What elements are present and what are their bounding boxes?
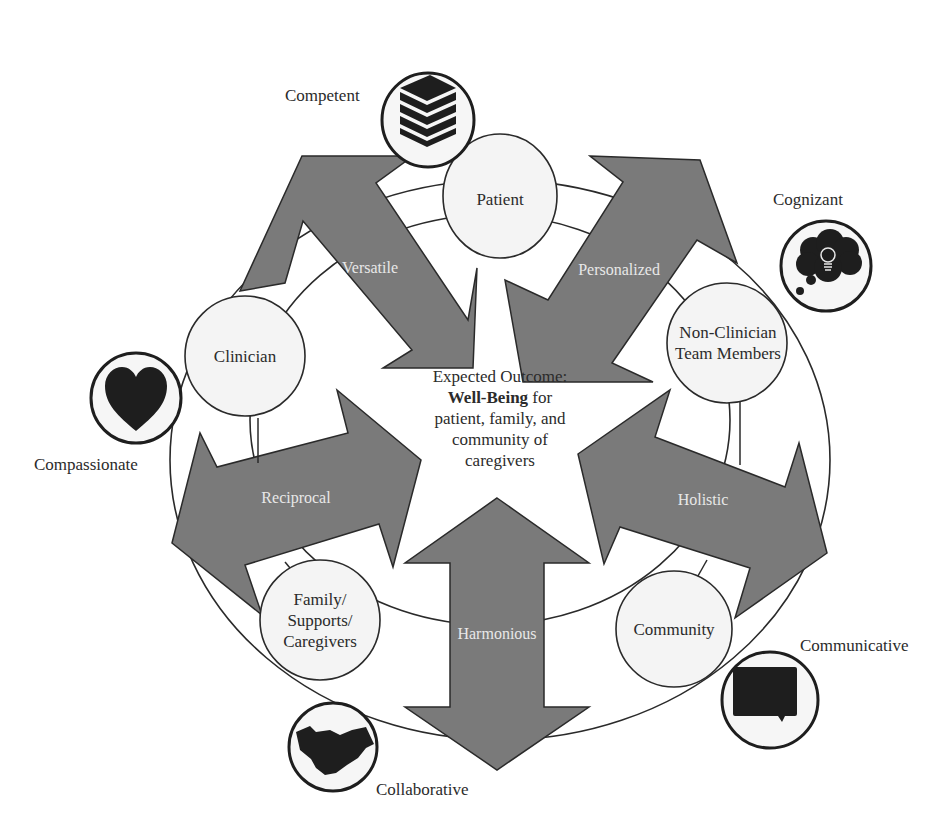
care-model-diagram: Patient Clinician Non-Clinician Team Mem… <box>0 0 950 826</box>
node-line: Non-Clinician <box>675 322 781 343</box>
arrow-label-harmonious: Harmonious <box>457 625 536 643</box>
arrow-label-versatile: Versatile <box>342 259 398 277</box>
node-line: Team Members <box>675 343 781 364</box>
attribute-label-communicative: Communicative <box>800 636 909 656</box>
node-label-clinician: Clinician <box>214 346 276 367</box>
outcome-bold: Well-Being <box>448 388 528 407</box>
node-line: Supports/ <box>283 610 357 631</box>
outcome-line: Well-Being for <box>410 387 590 408</box>
node-line: Patient <box>476 190 523 209</box>
outcome-line: caregivers <box>410 450 590 471</box>
arrow-label-reciprocal: Reciprocal <box>261 489 330 507</box>
outcome-line: Expected Outcome: <box>410 366 590 387</box>
arrow-label-holistic: Holistic <box>678 491 729 509</box>
node-label-patient: Patient <box>476 189 523 210</box>
books-icon <box>400 75 456 147</box>
expected-outcome-text: Expected Outcome: Well-Being for patient… <box>410 366 590 471</box>
node-line: Caregivers <box>283 631 357 652</box>
attribute-label-competent: Competent <box>285 86 360 106</box>
outcome-rest: for <box>528 388 552 407</box>
node-line: Family/ <box>283 589 357 610</box>
node-label-family: Family/ Supports/ Caregivers <box>283 589 357 652</box>
attribute-label-compassionate: Compassionate <box>34 455 138 475</box>
outcome-line: patient, family, and <box>410 408 590 429</box>
node-label-non-clinician: Non-Clinician Team Members <box>675 322 781 364</box>
outcome-line: community of <box>410 429 590 450</box>
node-line: Community <box>633 620 714 639</box>
arrow-label-personalized: Personalized <box>578 261 660 279</box>
node-line: Clinician <box>214 347 276 366</box>
speech-bubble-icon <box>733 667 797 722</box>
node-label-community: Community <box>633 619 714 640</box>
attribute-label-collaborative: Collaborative <box>376 780 469 800</box>
attribute-label-cognizant: Cognizant <box>773 190 843 210</box>
